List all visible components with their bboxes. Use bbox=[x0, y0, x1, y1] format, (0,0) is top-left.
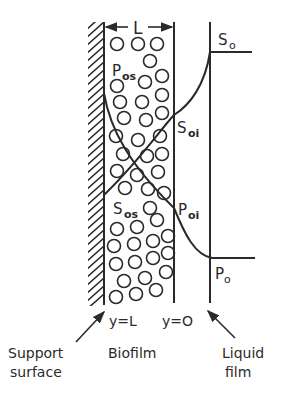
label-y-interface: y=O bbox=[162, 313, 193, 329]
svg-text:oi: oi bbox=[188, 209, 199, 222]
label-S-bulk: S o bbox=[218, 31, 236, 52]
svg-text:oi: oi bbox=[188, 127, 199, 140]
svg-text:S: S bbox=[113, 200, 123, 218]
label-P-surface: P os bbox=[112, 62, 137, 83]
product-profile-curve bbox=[104, 93, 255, 258]
biofilm-label: Biofilm bbox=[108, 345, 156, 361]
label-P-bulk: P o bbox=[215, 265, 231, 286]
svg-text:P: P bbox=[112, 62, 121, 80]
label-P-interface: P oi bbox=[178, 201, 199, 222]
svg-text:P: P bbox=[215, 265, 224, 283]
liquid-film-arrow-icon bbox=[208, 311, 235, 338]
support-arrow-icon bbox=[76, 312, 104, 342]
liquid-film-label-2: film bbox=[225, 364, 251, 380]
svg-text:S: S bbox=[177, 119, 187, 137]
biofilm-diagram: L S o P os S oi S os P oi bbox=[0, 0, 297, 404]
svg-text:P: P bbox=[178, 201, 187, 219]
liquid-film-label-1: Liquid bbox=[222, 345, 264, 361]
support-surface-hatch bbox=[86, 14, 104, 310]
svg-text:o: o bbox=[224, 273, 231, 286]
svg-text:o: o bbox=[229, 39, 236, 52]
support-surface-label-2: surface bbox=[10, 364, 62, 380]
label-S-interface: S oi bbox=[177, 119, 199, 140]
svg-text:os: os bbox=[122, 70, 137, 83]
thickness-label: L bbox=[133, 18, 143, 38]
label-y-wall: y=L bbox=[109, 313, 137, 329]
support-surface-label-1: Support bbox=[8, 345, 64, 361]
label-S-surface: S os bbox=[113, 200, 139, 221]
svg-text:os: os bbox=[124, 208, 139, 221]
svg-text:S: S bbox=[218, 31, 228, 49]
